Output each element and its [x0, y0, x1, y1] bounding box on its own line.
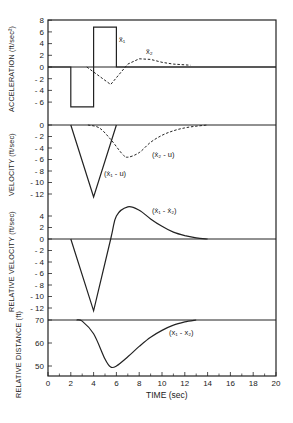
- series-line: [71, 207, 208, 311]
- x-tick-label: 4: [91, 379, 96, 388]
- annotation-x1-u: (ẋ₁ - u): [104, 169, 127, 178]
- series-line: [71, 125, 117, 197]
- y-tick-label: 6: [40, 28, 45, 37]
- annotation-x2-accel: ẍ₂: [146, 47, 153, 56]
- x-tick-label: 12: [180, 379, 189, 388]
- x-tick-label: 20: [272, 379, 281, 388]
- y-tick-label: 2: [40, 51, 45, 60]
- y-label-acceleration: ACCELERATION (ft/sec²): [7, 26, 16, 112]
- y-label-relative-velocity: RELATIVE VELOCITY (ft/sec): [7, 211, 16, 312]
- y-tick-label: - 2: [35, 132, 45, 141]
- y-tick-label: 0: [40, 63, 45, 72]
- series-line: [77, 320, 197, 368]
- data-series: [48, 27, 276, 368]
- y-tick-label: - 10: [30, 292, 44, 301]
- y-tick-label: - 4: [35, 258, 45, 267]
- y-tick-label: 4: [40, 212, 45, 221]
- y-label-velocity: VELOCITY (ft/sec): [7, 133, 16, 196]
- series-line: [88, 125, 208, 157]
- y-tick-label: - 10: [30, 178, 44, 187]
- y-tick-label: 60: [35, 339, 44, 348]
- y-tick-label: 0: [40, 121, 45, 130]
- annotation-rel-distance: (x₁ - x₂): [169, 328, 194, 337]
- y-tick-label: - 4: [35, 144, 45, 153]
- x-tick-label: 2: [69, 379, 74, 388]
- x-tick-label: 18: [249, 379, 258, 388]
- x-tick-label: 16: [226, 379, 235, 388]
- x-tick-label: 0: [46, 379, 51, 388]
- x-tick-label: 10: [158, 379, 167, 388]
- y-tick-label: 50: [35, 362, 44, 371]
- series-line: [87, 59, 191, 85]
- y-tick-label: - 8: [35, 281, 45, 290]
- annotation-x2-u: (ẋ₂ - u): [152, 150, 175, 159]
- y-tick-label: 2: [40, 223, 45, 232]
- x-tick-label: 8: [137, 379, 142, 388]
- y-tick-label: - 6: [35, 98, 45, 107]
- y-tick-label: - 8: [35, 167, 45, 176]
- x-tick-label: 14: [203, 379, 212, 388]
- annotation-x1-accel: ẍ₁: [119, 35, 126, 44]
- y-tick-label: - 2: [35, 246, 45, 255]
- annotation-rel-velocity: (ẋ₁ - ẋ₂): [152, 206, 177, 215]
- y-tick-label: - 4: [35, 86, 45, 95]
- plot-frame: [48, 20, 276, 376]
- y-tick-label: - 6: [35, 155, 45, 164]
- y-tick-label: 4: [40, 39, 45, 48]
- x-axis-label: TIME (sec): [146, 390, 188, 400]
- y-tick-label: 0: [40, 235, 45, 244]
- y-tick-label: 70: [35, 316, 44, 325]
- y-tick-label: - 2: [35, 75, 45, 84]
- y-tick-label: - 12: [30, 190, 44, 199]
- stacked-chart: 0246810121416182086420- 2- 4- 60- 2- 4- …: [0, 0, 293, 423]
- x-tick-label: 6: [114, 379, 119, 388]
- axis-ticks: 0246810121416182086420- 2- 4- 60- 2- 4- …: [30, 16, 281, 388]
- y-label-relative-distance: RELATIVE DISTANCE (ft): [14, 311, 23, 398]
- y-tick-label: - 12: [30, 304, 44, 313]
- y-tick-label: 8: [40, 16, 45, 25]
- y-tick-label: - 6: [35, 269, 45, 278]
